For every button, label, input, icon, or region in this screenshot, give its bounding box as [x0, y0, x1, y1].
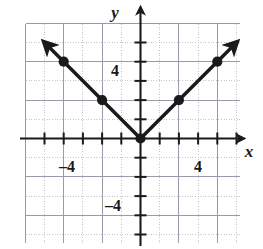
axes-group: [20, 8, 243, 246]
coordinate-plane-svg: x y –4 4 4 –4: [0, 0, 263, 249]
y-tick-label-negative-4: –4: [104, 197, 121, 214]
y-tick-label-positive-4: 4: [111, 62, 119, 79]
x-tick-label-positive-4: 4: [194, 158, 202, 175]
y-axis-label: y: [109, 3, 119, 22]
x-tick-label-negative-4: –4: [58, 158, 75, 175]
x-axis-label: x: [244, 142, 254, 161]
graph-figure: x y –4 4 4 –4: [0, 0, 263, 249]
